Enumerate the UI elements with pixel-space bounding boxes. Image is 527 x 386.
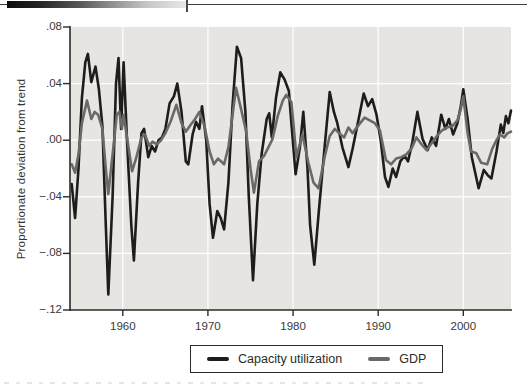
y-tick-label: .08 <box>28 20 62 32</box>
x-tick-label: 1960 <box>103 320 143 332</box>
y-axis-title: Proportionate deviation from trend <box>15 79 27 260</box>
x-tick-label: 1980 <box>273 320 313 332</box>
x-tick-label: 1970 <box>188 320 228 332</box>
x-tick-label: 1990 <box>358 320 398 332</box>
y-tick-label: −.12 <box>28 303 62 315</box>
y-tick-label: −.08 <box>28 246 62 258</box>
legend-label-gdp: GDP <box>399 352 426 366</box>
y-tick-label: −.04 <box>28 190 62 202</box>
capacity-utilization-line-swatch <box>207 357 229 361</box>
figure-page: Proportionate deviation from trend .08.0… <box>0 0 527 386</box>
gdp-line-swatch <box>368 357 390 361</box>
chart-legend: Capacity utilization GDP <box>190 345 443 373</box>
cropped-text-artifact <box>4 382 424 384</box>
y-tick-label: .00 <box>28 133 62 145</box>
x-tick-label: 2000 <box>443 320 483 332</box>
y-tick-label: .04 <box>28 77 62 89</box>
legend-label-capacity-utilization: Capacity utilization <box>238 352 342 366</box>
